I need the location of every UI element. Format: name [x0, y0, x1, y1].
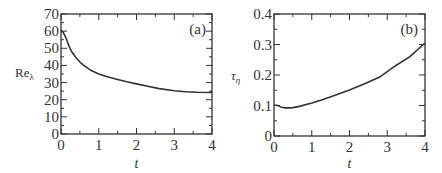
tick-label: 60 — [44, 23, 59, 39]
chart-panel-a: 01234010203040506070 (a) t Reλ — [15, 6, 216, 171]
y-axis-label: Reλ — [15, 65, 34, 82]
tick-label: 0 — [265, 128, 273, 144]
y-axis-label-subscript: λ — [29, 72, 34, 82]
tick-label: 2 — [346, 139, 354, 155]
tick-label: 4 — [421, 139, 429, 155]
y-axis-label-subscript: η — [236, 75, 241, 85]
tick-label: 4 — [208, 137, 216, 153]
tick-label: 1 — [95, 137, 103, 153]
tick-label: 0 — [52, 126, 60, 142]
tick-label: 0.4 — [253, 6, 272, 22]
tick-label: 3 — [171, 137, 179, 153]
y-axis-label-main: Re — [15, 65, 30, 80]
figure: 01234010203040506070 (a) t Reλ 0123400.1… — [0, 0, 442, 173]
panel-label: (b) — [401, 21, 419, 38]
data-line — [274, 43, 425, 108]
tick-label: 1 — [308, 139, 316, 155]
tick-label: 3 — [384, 139, 392, 155]
x-axis-label: t — [348, 156, 353, 171]
tick-label: 2 — [133, 137, 141, 153]
x-axis-label: t — [135, 156, 140, 171]
tick-label: 50 — [44, 40, 59, 56]
tick-label: 20 — [44, 92, 59, 108]
tick-label: 0.3 — [253, 37, 272, 53]
chart-panel-b: 0123400.10.20.30.4 (b) t τη — [231, 6, 429, 171]
tick-label: 10 — [44, 109, 59, 125]
tick-label: 30 — [44, 75, 59, 91]
tick-label: 0.2 — [253, 67, 272, 83]
y-axis-label: τη — [231, 68, 241, 85]
tick-label: 40 — [44, 57, 59, 73]
tick-label: 0.1 — [253, 98, 272, 114]
tick-label: 70 — [44, 6, 59, 22]
data-line — [61, 30, 212, 92]
panel-label: (a) — [189, 21, 206, 38]
